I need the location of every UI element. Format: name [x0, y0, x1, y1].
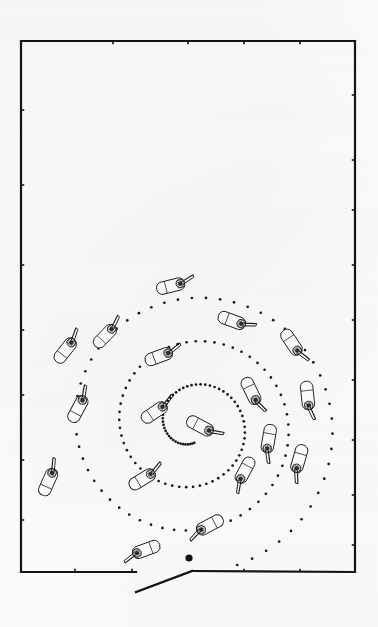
spiral-dot	[265, 492, 268, 495]
spiral-dot	[185, 341, 188, 344]
spiral-dot	[331, 432, 334, 435]
spiral-dot	[236, 405, 239, 408]
spiral-dot	[90, 358, 93, 361]
spiral-dot	[286, 444, 289, 447]
spiral-dot	[256, 362, 259, 365]
spiral-dot	[287, 423, 290, 426]
spiral-dot	[198, 484, 201, 487]
spiral-dot	[162, 420, 165, 423]
spiral-dot	[213, 386, 216, 389]
spiral-dot	[272, 319, 275, 322]
spiral-dot	[205, 482, 208, 485]
spiral-dot	[330, 417, 333, 420]
spiral-dot	[227, 469, 230, 472]
spiral-dot	[243, 437, 246, 440]
spiral-dot	[290, 530, 293, 533]
spiral-dot	[205, 297, 208, 300]
spiral-dot	[177, 298, 180, 301]
bottom-wall-right-segment	[192, 571, 355, 572]
spiral-dot	[222, 473, 225, 476]
spiral-dot	[100, 489, 103, 492]
spiral-dot	[185, 486, 188, 489]
spiral-dot	[78, 445, 81, 448]
spiral-dot	[185, 529, 188, 532]
spiral-dot	[287, 434, 290, 437]
spiral-dot	[317, 492, 320, 495]
spiral-dot	[246, 305, 249, 308]
spiral-dot	[241, 415, 244, 418]
spiral-dot	[259, 311, 262, 314]
spiral-dot	[133, 372, 136, 375]
spiral-dot	[309, 505, 312, 508]
spiral-dot	[164, 482, 167, 485]
spiral-dot	[119, 402, 122, 405]
spiral-dot	[173, 529, 176, 532]
spiral-dot	[164, 430, 167, 433]
spiral-dot	[79, 382, 82, 385]
spiral-dot	[222, 343, 225, 346]
spiral-dot	[186, 385, 189, 388]
spiral-dot	[190, 384, 193, 387]
spiral-dot	[163, 301, 166, 304]
spiral-dot	[124, 387, 127, 390]
spiral-dot	[230, 397, 233, 400]
spiral-dot	[163, 427, 166, 430]
spiral-dot	[283, 403, 286, 406]
spiral-dot	[109, 498, 112, 501]
spiral-dot	[204, 383, 207, 386]
spiral-dot	[178, 389, 181, 392]
spiral-dot	[126, 449, 129, 452]
spiral-dot	[128, 379, 131, 382]
spiral-dot	[270, 376, 273, 379]
spiral-dot	[244, 431, 247, 434]
spiral-dot	[186, 443, 189, 446]
spiral-dot	[218, 388, 221, 391]
spiral-dot	[161, 527, 164, 530]
spiral-dot	[240, 448, 243, 451]
spiral-dot	[166, 432, 169, 435]
page-background	[0, 0, 378, 627]
spiral-dot	[87, 469, 90, 472]
spiral-dot	[263, 368, 266, 371]
spiral-dot	[236, 564, 239, 567]
spiral-dot	[243, 426, 246, 429]
spiral-dot	[120, 434, 123, 437]
spiral-dot	[129, 456, 132, 459]
spiral-dot	[284, 454, 287, 457]
spiral-dot	[119, 426, 122, 429]
spiral-dot	[265, 549, 268, 552]
spiral-dot	[327, 463, 330, 466]
spiral-dot	[209, 384, 212, 387]
spiral-dot	[275, 384, 278, 387]
spiral-dot	[174, 440, 177, 443]
spiral-dot	[128, 513, 131, 516]
spiral-dot	[319, 374, 322, 377]
spiral-dot	[229, 519, 232, 522]
spiral-dot	[239, 410, 242, 413]
spiral-dot	[118, 419, 121, 422]
spiral-dot	[122, 442, 125, 445]
spiral-dot	[168, 435, 171, 438]
spiral-dot	[328, 402, 331, 405]
spiral-dot	[138, 312, 141, 315]
spiral-dot	[171, 484, 174, 487]
spiral-dot	[184, 443, 187, 446]
spiral-dot	[175, 391, 178, 394]
spiral-dot	[226, 393, 229, 396]
spiral-dot	[231, 464, 234, 467]
spiral-dot	[139, 467, 142, 470]
spiral-dot	[239, 514, 242, 517]
spiral-dot	[278, 540, 281, 543]
spiral-dot	[312, 361, 315, 364]
spiral-dot	[139, 365, 142, 368]
spiral-dot	[249, 508, 252, 511]
spiral-dot	[235, 459, 238, 462]
spiral-dot	[204, 340, 207, 343]
spiral-dot	[157, 480, 160, 483]
spiral-dot	[300, 518, 303, 521]
spiral-dot	[182, 387, 185, 390]
spiral-dot	[191, 297, 194, 300]
spiral-dot	[233, 400, 236, 403]
spiral-dot	[150, 306, 153, 309]
spiral-dot	[161, 417, 164, 420]
